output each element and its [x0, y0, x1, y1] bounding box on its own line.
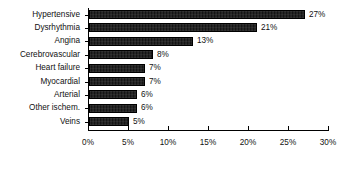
x-axis-tick — [328, 126, 329, 131]
bar-value-label: 8% — [157, 50, 169, 60]
horizontal-bar-chart: HypertensiveDysrhythmiaAnginaCerebrovasc… — [0, 0, 346, 170]
category-label-veins: Veins — [0, 117, 80, 126]
bar — [89, 117, 129, 126]
bar-value-label: 6% — [141, 103, 153, 113]
x-axis-tick — [208, 126, 209, 131]
bar — [89, 64, 145, 73]
bar-row: 6% — [89, 104, 329, 113]
bar-value-label: 27% — [309, 10, 325, 20]
bar-row: 7% — [89, 64, 329, 73]
x-axis-tick — [88, 126, 89, 131]
bar-row: 13% — [89, 37, 329, 46]
bar — [89, 104, 137, 113]
category-label-arterial: Arterial — [0, 90, 80, 99]
bar-value-label: 21% — [261, 23, 277, 33]
bar-row: 8% — [89, 50, 329, 59]
x-axis-tick-label: 5% — [113, 138, 143, 148]
bar — [89, 23, 257, 32]
bar-value-label: 6% — [141, 90, 153, 100]
category-label-hypertensive: Hypertensive — [0, 10, 80, 19]
x-axis-tick-label: 25% — [273, 138, 303, 148]
x-axis: 0%5%10%15%20%25%30% — [88, 130, 329, 160]
category-label-dysrhythmia: Dysrhythmia — [0, 23, 80, 32]
bar-value-label: 7% — [149, 77, 161, 87]
bar — [89, 10, 305, 19]
bar-row: 5% — [89, 117, 329, 126]
bar — [89, 37, 193, 46]
x-axis-tick — [248, 126, 249, 131]
bar — [89, 50, 153, 59]
bar-row: 7% — [89, 77, 329, 86]
bar — [89, 90, 137, 99]
bar-value-label: 7% — [149, 63, 161, 73]
category-label-myocardial: Myocardial — [0, 77, 80, 86]
category-label-angina: Angina — [0, 36, 80, 45]
x-axis-tick-label: 15% — [193, 138, 223, 148]
bar — [89, 77, 145, 86]
bar-row: 21% — [89, 23, 329, 32]
x-axis-tick — [288, 126, 289, 131]
x-axis-tick-label: 0% — [73, 138, 103, 148]
x-axis-tick-label: 20% — [233, 138, 263, 148]
y-axis-category-labels: HypertensiveDysrhythmiaAnginaCerebrovasc… — [0, 8, 80, 130]
bar-value-label: 5% — [133, 117, 145, 127]
plot-area: 27%21%13%8%7%7%6%6%5% — [88, 8, 328, 130]
x-axis-tick-label: 10% — [153, 138, 183, 148]
x-axis-tick — [168, 126, 169, 131]
category-label-cerebrovascular: Cerebrovascular — [0, 50, 80, 59]
x-axis-tick-label: 30% — [313, 138, 343, 148]
x-axis-tick — [128, 126, 129, 131]
bar-value-label: 13% — [197, 36, 213, 46]
bar-row: 27% — [89, 10, 329, 19]
category-label-heart-failure: Heart failure — [0, 63, 80, 72]
category-label-other-ischem: Other ischem. — [0, 103, 80, 112]
bar-row: 6% — [89, 90, 329, 99]
